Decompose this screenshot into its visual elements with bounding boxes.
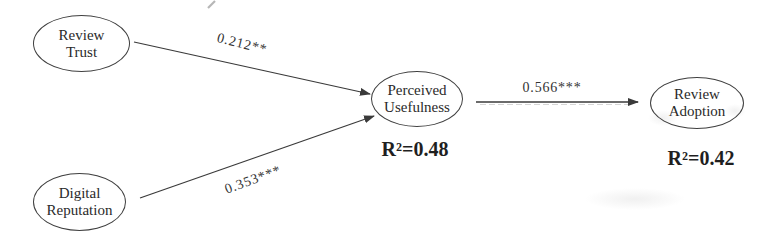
node-label-line: Review (674, 86, 720, 103)
node-label-line: Trust (66, 44, 97, 61)
node-review-trust: Review Trust (33, 15, 130, 72)
node-perceived-usefulness: Perceived Usefulness (371, 71, 463, 127)
node-label-line: Perceived (387, 82, 446, 99)
r-squared-review-adoption: R²=0.42 (668, 147, 735, 170)
node-label-line: Digital (59, 185, 101, 202)
node-label-line: Usefulness (384, 99, 450, 116)
path-coefficient-usefulness-to-adoption: 0.566*** (523, 80, 582, 96)
scan-artifact-mark (208, 1, 215, 8)
node-digital-reputation: Digital Reputation (33, 173, 126, 231)
node-label-line: Adoption (669, 103, 726, 120)
r-squared-perceived-usefulness: R²=0.48 (382, 138, 449, 161)
path-model-diagram: Review Trust Digital Reputation Perceive… (0, 0, 772, 239)
node-review-adoption: Review Adoption (650, 77, 744, 129)
node-label-line: Reputation (47, 202, 113, 219)
node-label-line: Review (59, 27, 105, 44)
